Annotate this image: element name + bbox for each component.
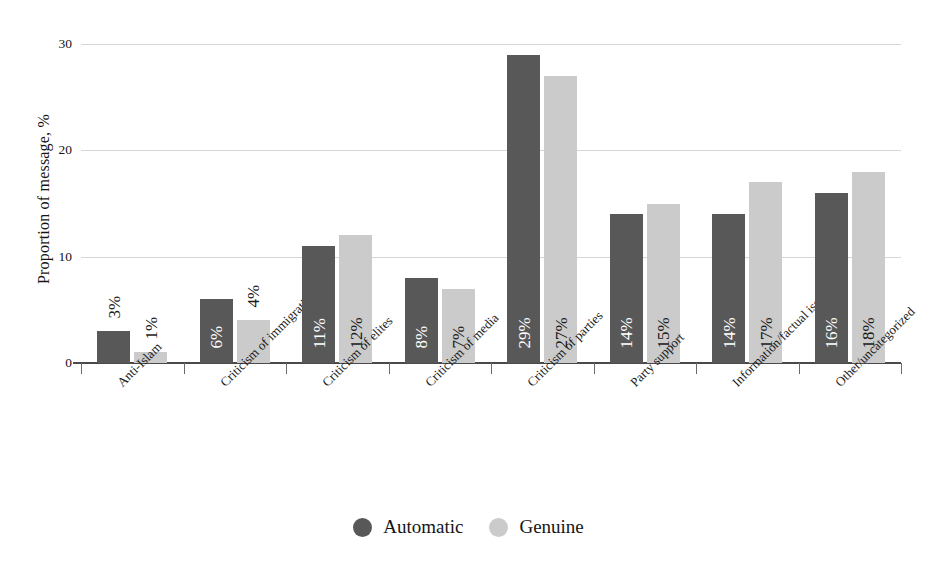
bar-group: 3%1%: [97, 44, 167, 363]
bar-group: 11%12%: [302, 44, 372, 363]
y-axis-title: Proportion of message, %: [35, 69, 53, 329]
bar-group: 16%18%: [815, 44, 885, 363]
bar-value-label: 8%: [413, 326, 430, 349]
x-axis-tick: [491, 363, 492, 374]
bar-automatic[interactable]: 3%: [97, 331, 130, 363]
bar-genuine[interactable]: 27%: [544, 76, 577, 363]
y-axis-tick-label: 20: [59, 144, 73, 158]
x-axis-tick: [286, 363, 287, 374]
chart-legend: AutomaticGenuine: [0, 516, 937, 538]
legend-label: Genuine: [519, 516, 583, 538]
x-axis-tick: [799, 363, 800, 374]
legend-swatch-icon: [353, 518, 372, 537]
legend-swatch-icon: [489, 518, 508, 537]
legend-item-genuine[interactable]: Genuine: [489, 516, 583, 538]
plot-area: 01020303%1%Anti-Islam6%4%Criticism of im…: [81, 44, 901, 363]
bar-value-label: 6%: [208, 326, 225, 349]
bar-chart: Proportion of message, % 01020303%1%Anti…: [0, 0, 937, 578]
bar-value-label: 14%: [618, 317, 635, 348]
x-axis-tick: [901, 363, 902, 374]
legend-label: Automatic: [383, 516, 463, 538]
bar-value-label: 1%: [142, 317, 159, 340]
bar-automatic[interactable]: 6%: [200, 299, 233, 363]
bar-value-label: 14%: [720, 317, 737, 348]
y-axis-tick-label: 30: [59, 37, 73, 51]
x-axis-tick: [389, 363, 390, 374]
bar-value-label: 4%: [245, 285, 262, 308]
legend-item-automatic[interactable]: Automatic: [353, 516, 463, 538]
x-axis-tick: [184, 363, 185, 374]
x-axis-tick: [81, 363, 82, 374]
bar-automatic[interactable]: 14%: [712, 214, 745, 363]
bar-group: 6%4%: [200, 44, 270, 363]
x-axis-tick: [594, 363, 595, 374]
bar-group: 8%7%: [405, 44, 475, 363]
bar-automatic[interactable]: 16%: [815, 193, 848, 363]
y-axis-tick-label: 0: [65, 356, 72, 370]
bar-value-label: 29%: [515, 317, 532, 348]
bar-group: 29%27%: [507, 44, 577, 363]
bar-automatic[interactable]: 11%: [302, 246, 335, 363]
bar-value-label: 3%: [105, 296, 122, 319]
bar-automatic[interactable]: 14%: [610, 214, 643, 363]
y-axis-tick-label: 10: [59, 250, 73, 264]
x-axis-tick: [696, 363, 697, 374]
bar-automatic[interactable]: 8%: [405, 278, 438, 363]
bar-group: 14%15%: [610, 44, 680, 363]
bar-value-label: 11%: [310, 318, 327, 349]
bar-value-label: 16%: [823, 317, 840, 348]
bar-group: 14%17%: [712, 44, 782, 363]
bar-automatic[interactable]: 29%: [507, 55, 540, 363]
